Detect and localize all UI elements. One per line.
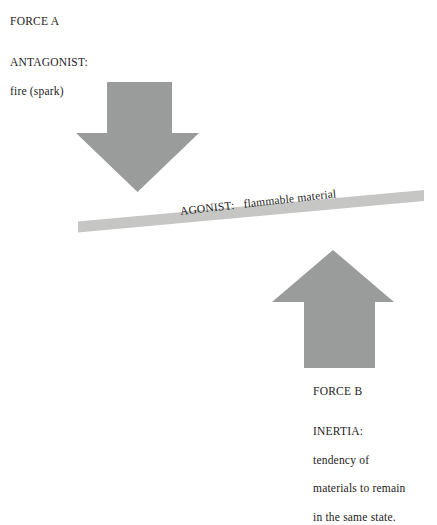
inertia-annotation: INERTIA: tendency of materials to remain… bbox=[313, 410, 406, 525]
inertia-line-1: tendency of bbox=[313, 453, 406, 467]
force-b-label: FORCE B bbox=[313, 384, 362, 398]
inertia-title: INERTIA: bbox=[313, 424, 406, 438]
antagonist-detail: fire (spark) bbox=[10, 84, 88, 98]
force-a-label: FORCE A bbox=[10, 14, 59, 28]
inertia-line-2: materials to remain bbox=[313, 481, 406, 495]
inertia-line-3: in the same state. bbox=[313, 510, 406, 524]
antagonist-title: ANTAGONIST: bbox=[10, 55, 88, 69]
antagonist-annotation: ANTAGONIST: fire (spark) bbox=[10, 41, 88, 112]
